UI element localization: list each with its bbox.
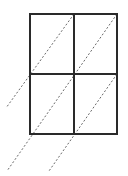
dashed-diagonal-lines bbox=[6, 14, 117, 171]
dashed-line-diag-1 bbox=[6, 14, 74, 108]
dashed-line-diag-2 bbox=[7, 14, 117, 171]
grid-diagram bbox=[0, 0, 128, 176]
dashed-line-diag-3 bbox=[49, 74, 117, 171]
two-by-two-grid bbox=[30, 14, 117, 134]
